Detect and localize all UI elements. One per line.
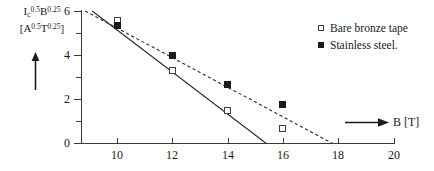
y-axis-unit-exp-05: 0.5: [31, 22, 40, 31]
y-axis-unit-open-a: [A: [20, 22, 32, 34]
y-tick-6: [74, 11, 81, 12]
legend-label-stainless-steel: Stainless steel.: [330, 39, 398, 51]
x-tick-label-14: 14: [213, 148, 243, 163]
y-axis-direction-arrow-icon: [30, 52, 41, 90]
data-point-stainless-steel-14: [224, 81, 231, 88]
data-point-bare-bronze-tape-16: [279, 125, 286, 132]
x-tick-14: [228, 138, 229, 143]
x-tick-12: [172, 138, 173, 143]
data-point-bare-bronze-tape-12: [169, 67, 176, 74]
y-tick-0: [74, 143, 81, 144]
legend-label-bare-bronze-tape: Bare bronze tape: [330, 22, 408, 34]
chart-figure: Ic0.5B0.25 [A0.5T0.25] 0 2 4 6 10 12 14 …: [0, 0, 434, 171]
trendline-bare-bronze-tape: [92, 11, 266, 143]
legend-item-bare-bronze-tape[interactable]: Bare bronze tape: [318, 19, 434, 36]
y-tick-4: [74, 55, 81, 56]
x-axis-direction-arrow-icon: [345, 117, 389, 128]
y-tick-label-6: 6: [48, 4, 70, 19]
legend: Bare bronze tape Stainless steel.: [318, 19, 434, 53]
x-tick-label-20: 20: [379, 148, 409, 163]
x-axis-label: B [T]: [393, 115, 419, 130]
y-tick-minor-3: [76, 77, 81, 78]
data-point-stainless-steel-12: [169, 52, 176, 59]
y-axis-label-line-2: [A0.5T0.25]: [6, 23, 78, 35]
legend-item-stainless-steel[interactable]: Stainless steel.: [318, 36, 434, 53]
data-point-stainless-steel-10: [114, 22, 121, 29]
open-square-marker-icon: [318, 25, 324, 31]
trendline-stainless-steel: [85, 11, 333, 143]
y-tick-label-2: 2: [48, 92, 70, 107]
y-tick-label-0: 0: [48, 136, 70, 151]
y-axis-unit-exp-025: 0.25: [47, 22, 60, 31]
y-tick-label-4: 4: [48, 48, 70, 63]
x-tick-label-18: 18: [323, 148, 353, 163]
y-tick-minor-1: [76, 121, 81, 122]
x-tick-16: [283, 138, 284, 143]
x-tick-10: [117, 138, 118, 143]
data-point-bare-bronze-tape-14: [224, 107, 231, 114]
x-tick-18: [338, 138, 339, 143]
y-tick-minor-5: [76, 33, 81, 34]
y-axis-line: [81, 10, 82, 144]
filled-square-marker-icon: [318, 42, 324, 48]
x-axis-line: [81, 143, 395, 144]
x-tick-label-16: 16: [268, 148, 298, 163]
y-axis-label-exp-05: 0.5: [31, 5, 40, 14]
x-tick-label-10: 10: [102, 148, 132, 163]
y-tick-2: [74, 99, 81, 100]
x-tick-20: [394, 138, 395, 143]
y-axis-unit-close: ]: [61, 22, 65, 34]
x-tick-label-12: 12: [157, 148, 187, 163]
data-point-stainless-steel-16: [279, 101, 286, 108]
